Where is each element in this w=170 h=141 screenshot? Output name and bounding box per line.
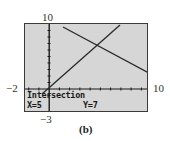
- decreasing-line: [63, 27, 148, 73]
- readout-x: X=5: [27, 101, 41, 110]
- increasing-line: [42, 25, 120, 94]
- readout-title: Intersection: [27, 91, 85, 100]
- readout-y: Y=7: [83, 101, 97, 110]
- figure-caption: (b): [79, 123, 92, 135]
- calculator-screen: Intersection X=5 Y=7: [24, 23, 148, 112]
- xmin-label: −2: [6, 83, 18, 94]
- ymax-label: 10: [42, 12, 53, 23]
- xmax-label: 10: [153, 83, 164, 94]
- ymin-label: −3: [40, 114, 52, 125]
